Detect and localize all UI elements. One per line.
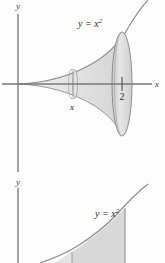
x-tick-label-2: 2: [120, 91, 125, 102]
curve-label-top-exponent: 2: [99, 17, 103, 25]
y-axis-label-top: y: [15, 1, 20, 11]
y-axis-label-bottom: y: [15, 177, 20, 187]
curve-label-bottom-exponent: 2: [116, 207, 120, 215]
curve-label-bottom: y = x2: [94, 207, 120, 219]
solid-of-revolution-panel: y x y = x2 x 2: [2, 0, 159, 172]
plane-region-panel: y y = x2: [15, 177, 148, 263]
shell-position-label: x: [69, 102, 74, 112]
calculus-figure: y x y = x2 x 2: [0, 0, 165, 263]
x-axis-label-top: x: [154, 79, 159, 89]
curve-label-top: y = x2: [77, 17, 103, 29]
figure-svg: y x y = x2 x 2: [0, 0, 165, 263]
